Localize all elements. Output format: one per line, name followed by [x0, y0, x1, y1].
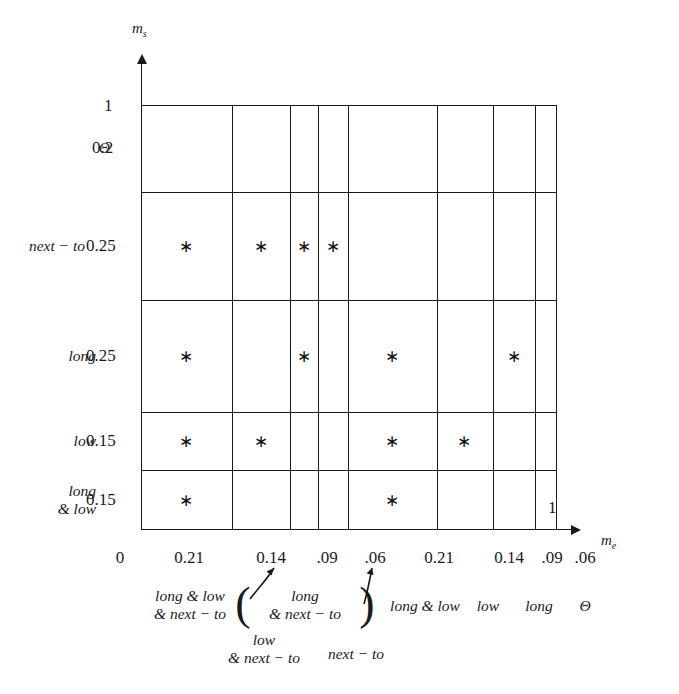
mass-assignment-grid: ∗ ∗ ∗ ∗ ∗ ∗ ∗ ∗ ∗ ∗ ∗ ∗ ∗ ∗: [141, 105, 557, 530]
x-annotation-long-low-next-to: long & low & next − to: [154, 587, 226, 624]
x-annotation-theta: Θ: [579, 597, 590, 615]
y-row-value-next-to: 0.25: [86, 236, 116, 256]
x-tick-4: .06: [364, 548, 385, 568]
grid-vline-5: [437, 105, 438, 530]
y-row-value-long-and-low: 0.15: [86, 490, 116, 510]
grid-vline-2: [290, 105, 291, 530]
x-axis-name-sub: e: [612, 540, 616, 551]
grid-vline-6: [493, 105, 494, 530]
cell-marker: ∗: [507, 348, 521, 365]
y-row-value-long: 0.25: [86, 346, 116, 366]
annotation-line1: next − to: [328, 645, 384, 663]
annotation-line1: low: [477, 597, 499, 615]
cell-marker: ∗: [254, 238, 268, 255]
y-row-value-theta: 0.2: [92, 138, 113, 158]
annotation-line1: Θ: [579, 597, 590, 615]
y-axis-name-sub: s: [143, 28, 147, 39]
y-row-label-next-to: next − to: [0, 237, 85, 255]
figure-canvas: ms me 1 1 ∗ ∗ ∗ ∗ ∗ ∗ ∗: [0, 0, 679, 694]
x-annotation-next-to: next − to: [328, 645, 384, 663]
cell-marker: ∗: [297, 238, 311, 255]
y-axis-arrow-icon: [137, 54, 147, 64]
x-annotation-long: long: [525, 597, 553, 615]
cell-marker: ∗: [179, 433, 193, 450]
x-annotation-low-next-to: low & next − to: [228, 631, 300, 668]
annotation-line1: long & low: [390, 597, 460, 615]
x-tick-7: .09: [541, 548, 562, 568]
x-tick-2: 0.14: [256, 548, 286, 568]
cell-marker: ∗: [254, 433, 268, 450]
cell-marker: ∗: [326, 238, 340, 255]
y-row-label-low: low: [0, 432, 96, 450]
y-axis-top-tick: 1: [104, 96, 113, 116]
grid-vline-1: [232, 105, 233, 530]
cell-marker: ∗: [179, 238, 193, 255]
cell-marker: ∗: [179, 348, 193, 365]
annotation-line2: & next − to: [154, 605, 226, 623]
y-row-label-line2: & low: [0, 500, 96, 518]
y-row-label-line1: long: [0, 482, 96, 500]
annotation-leader-arrow-2: [358, 566, 388, 606]
y-axis-name: ms: [132, 20, 147, 39]
y-row-value-low: 0.15: [86, 431, 116, 451]
grid-vline-4: [348, 105, 349, 530]
x-tick-6: 0.14: [494, 548, 524, 568]
annotation-line1: long: [525, 597, 553, 615]
x-annotation-low: low: [477, 597, 499, 615]
x-axis-arrow-icon: [571, 525, 581, 535]
annotation-line1: low: [228, 631, 300, 649]
y-axis-name-base: m: [132, 20, 143, 36]
annotation-leader-arrow-1: [244, 566, 280, 602]
annotation-line2: & next − to: [228, 649, 300, 667]
cell-marker: ∗: [297, 348, 311, 365]
grid-vline-0: [141, 105, 142, 530]
x-tick-5: 0.21: [424, 548, 454, 568]
x-tick-8: .06: [574, 548, 595, 568]
x-annotation-long-and-low: long & low: [390, 597, 460, 615]
grid-vline-8: [556, 105, 557, 530]
annotation-line1: long & low: [154, 587, 226, 605]
cell-marker: ∗: [385, 492, 399, 509]
cell-marker: ∗: [385, 348, 399, 365]
cell-marker: ∗: [385, 433, 399, 450]
y-row-label-long-and-low: long & low: [0, 482, 96, 518]
x-axis-name: me: [601, 532, 616, 551]
grid-vline-3: [318, 105, 319, 530]
cell-marker: ∗: [457, 433, 471, 450]
x-tick-0: 0: [116, 548, 125, 568]
x-axis-name-base: m: [601, 532, 612, 548]
x-tick-1: 0.21: [174, 548, 204, 568]
x-tick-3: .09: [316, 548, 337, 568]
annotation-line2: & next − to: [269, 605, 341, 623]
grid-vline-7: [535, 105, 536, 530]
y-row-label-long: long: [0, 347, 96, 365]
cell-marker: ∗: [179, 492, 193, 509]
